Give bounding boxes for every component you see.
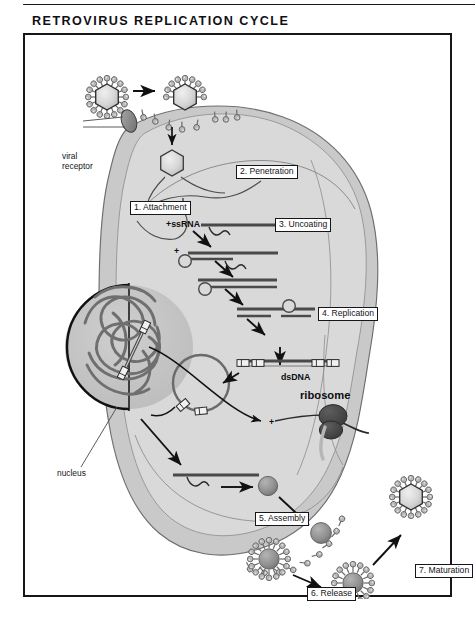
budding-virion — [247, 537, 290, 580]
plus-sign-mrna: + — [269, 417, 274, 427]
step-label-replication[interactable]: 4. Replication — [318, 307, 378, 321]
arrow-maturation — [373, 535, 401, 565]
viral-receptor-line-1: viral — [62, 151, 77, 161]
arrow-release — [293, 575, 321, 587]
step-label-uncoating[interactable]: 3. Uncoating — [275, 218, 331, 232]
page-title: RETROVIRUS REPLICATION CYCLE — [32, 14, 289, 28]
step-label-attachment[interactable]: 1. Attachment — [130, 201, 191, 215]
diagram-page: RETROVIRUS REPLICATION CYCLE — [0, 0, 475, 621]
molecule-label-ribosome: ribosome — [300, 389, 350, 401]
step-label-assembly[interactable]: 5. Assembly — [255, 512, 309, 526]
maturation-stage — [373, 475, 433, 565]
figure-frame: 1. Attachment 2. Penetration 3. Uncoatin… — [23, 33, 452, 597]
mature-virion — [389, 475, 432, 518]
core-particle-2 — [311, 523, 332, 544]
molecule-label-dsdna: dsDNA — [281, 372, 310, 382]
viral-receptor-line-2: receptor — [62, 161, 93, 171]
top-rule — [23, 4, 475, 5]
core-particle-1 — [258, 476, 277, 495]
internal-capsid — [161, 150, 184, 176]
plus-sign-minus-strand: + — [174, 246, 179, 256]
molecule-label-plus-ssrna: +ssRNA — [166, 219, 200, 229]
step-label-penetration[interactable]: 2. Penetration — [236, 165, 298, 179]
step-label-maturation[interactable]: 7. Maturation — [415, 564, 473, 578]
diagram-artwork — [25, 35, 454, 599]
annotation-viral-receptor: viral receptor — [62, 152, 93, 172]
annotation-nucleus: nucleus — [57, 469, 86, 479]
step-label-release[interactable]: 6. Release — [307, 587, 356, 601]
